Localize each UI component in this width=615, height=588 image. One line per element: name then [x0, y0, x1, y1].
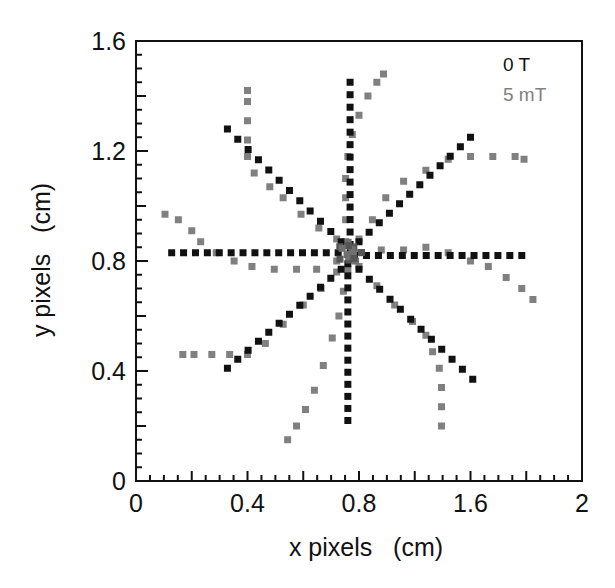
scatter-chart: 00.40.81.62 00.40.81.21.6 x pixels (cm) … [0, 0, 615, 588]
data-point [335, 313, 342, 320]
data-point [245, 146, 252, 153]
data-point [190, 351, 197, 358]
data-point [396, 200, 403, 207]
data-point [347, 91, 354, 98]
data-point [315, 225, 322, 232]
data-point [284, 436, 291, 443]
y-tick-label: 1.6 [91, 27, 126, 55]
data-point [347, 179, 354, 186]
data-point [311, 387, 318, 394]
y-tick-label: 0 [112, 467, 126, 495]
data-point [286, 187, 293, 194]
data-point [366, 229, 373, 236]
data-point [411, 252, 418, 259]
data-point [358, 249, 365, 256]
data-point [418, 326, 425, 333]
data-point [161, 211, 168, 218]
data-point [457, 143, 464, 150]
data-point [224, 365, 231, 372]
y-tick-label: 0.8 [91, 247, 126, 275]
data-point [376, 219, 383, 226]
data-point [512, 153, 519, 160]
data-point [428, 336, 435, 343]
data-point [224, 126, 231, 133]
data-point [276, 320, 283, 327]
data-point [489, 153, 496, 160]
data-point [400, 178, 407, 185]
data-point [327, 228, 334, 235]
data-point [293, 423, 300, 430]
data-point [296, 302, 303, 309]
data-point [347, 191, 354, 198]
data-point [399, 252, 406, 259]
data-point [344, 321, 351, 328]
data-point [373, 79, 380, 86]
data-point [262, 340, 269, 347]
data-point [344, 333, 351, 340]
legend-item-5mt: 5 mT [503, 84, 547, 105]
data-point [188, 227, 195, 234]
data-point [467, 153, 474, 160]
data-point [369, 216, 376, 223]
data-point [240, 249, 247, 256]
data-point [244, 98, 251, 105]
x-tick-label: 2 [575, 489, 589, 517]
data-point [266, 183, 273, 190]
data-point [265, 167, 272, 174]
data-point [248, 263, 255, 270]
data-point [216, 249, 223, 256]
data-point [344, 284, 351, 291]
data-point [168, 249, 175, 256]
data-point [192, 249, 199, 256]
data-point [287, 249, 294, 256]
x-tick-labels: 00.40.81.62 [129, 489, 589, 517]
data-point [228, 249, 235, 256]
data-point [438, 346, 445, 353]
data-point [244, 87, 251, 94]
data-point [449, 356, 456, 363]
data-point [347, 166, 354, 173]
data-point [226, 351, 233, 358]
data-point [347, 79, 354, 86]
data-point [280, 194, 287, 201]
data-point [375, 252, 382, 259]
data-point [529, 296, 536, 303]
data-point [347, 129, 354, 136]
data-point [467, 134, 474, 141]
data-point [521, 156, 528, 163]
data-point [344, 417, 351, 424]
y-tick-label: 0.4 [91, 357, 126, 385]
data-point [344, 393, 351, 400]
data-point [179, 351, 186, 358]
data-point [356, 266, 363, 273]
data-point [244, 137, 251, 144]
data-point [494, 252, 501, 259]
data-point [231, 258, 238, 265]
data-point [307, 208, 314, 215]
data-point [407, 316, 414, 323]
data-point [416, 181, 423, 188]
data-point [347, 141, 354, 148]
data-point [347, 116, 354, 123]
data-point [286, 311, 293, 318]
data-point [506, 252, 513, 259]
data-point [302, 406, 309, 413]
data-point [438, 403, 445, 410]
data-point [447, 153, 454, 160]
data-point [307, 293, 314, 300]
data-point [255, 156, 262, 163]
data-point [234, 356, 241, 363]
data-point [347, 154, 354, 161]
data-point [459, 252, 466, 259]
data-point [263, 249, 270, 256]
x-axis-title: x pixels (cm) [289, 533, 443, 561]
data-point [447, 252, 454, 259]
data-point [298, 211, 305, 218]
data-point [437, 162, 444, 169]
data-point [244, 153, 251, 160]
data-point [327, 275, 334, 282]
data-point [271, 266, 278, 273]
data-point [329, 335, 336, 342]
data-point [345, 242, 352, 249]
y-tick-labels: 00.40.81.21.6 [91, 27, 126, 495]
